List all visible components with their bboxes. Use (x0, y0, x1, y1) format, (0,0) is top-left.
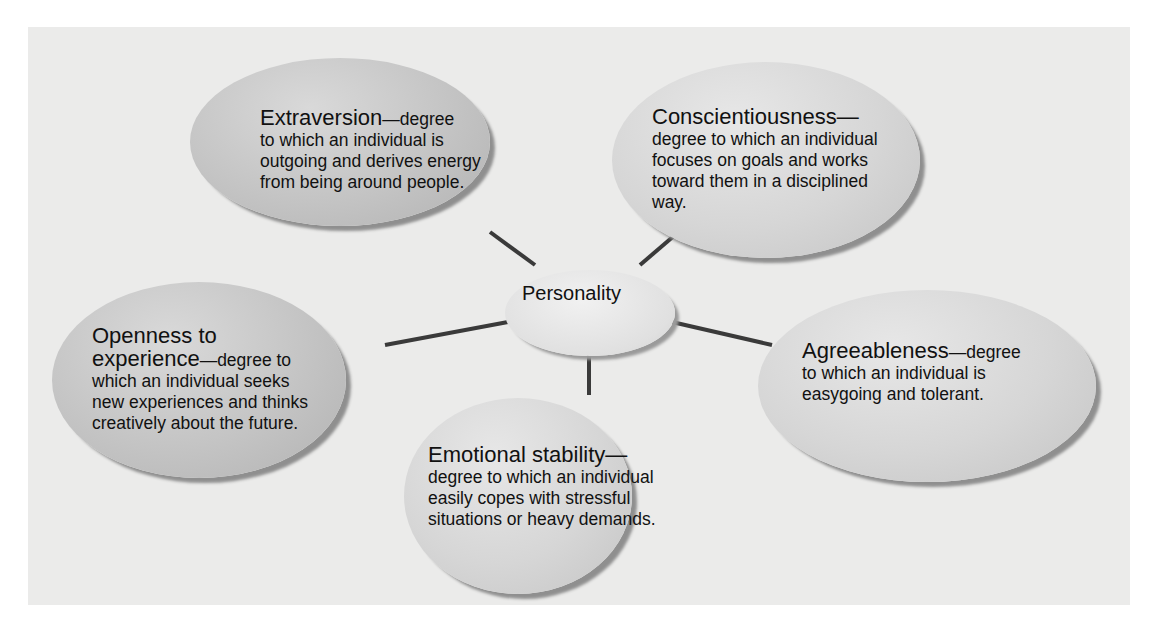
trait-term: Agreeableness (802, 338, 949, 363)
trait-term: Conscientiousness— (652, 104, 859, 129)
connector-conscientiousness (640, 235, 675, 265)
trait-term: Extraversion (260, 105, 382, 130)
connector-extraversion (490, 232, 535, 265)
center-label: Personality (522, 282, 621, 305)
trait-term: Openness to experience (92, 323, 217, 371)
connector-openness (385, 322, 508, 345)
trait-text-conscientiousness: Conscientiousness— degree to which an in… (652, 106, 878, 213)
trait-text-extraversion: Extraversion—degree to which an individu… (260, 107, 481, 193)
trait-text-agreeableness: Agreeableness—degree to which an individ… (802, 340, 1021, 405)
trait-text-openness: Openness to experience—degree to which a… (92, 325, 308, 434)
trait-text-emotional-stability: Emotional stability— degree to which an … (428, 444, 656, 530)
trait-definition: degree to which an individual easily cop… (428, 467, 656, 529)
trait-definition: degree to which an individual focuses on… (652, 129, 878, 212)
connector-agreeableness (672, 322, 772, 345)
trait-term: Emotional stability— (428, 442, 627, 467)
